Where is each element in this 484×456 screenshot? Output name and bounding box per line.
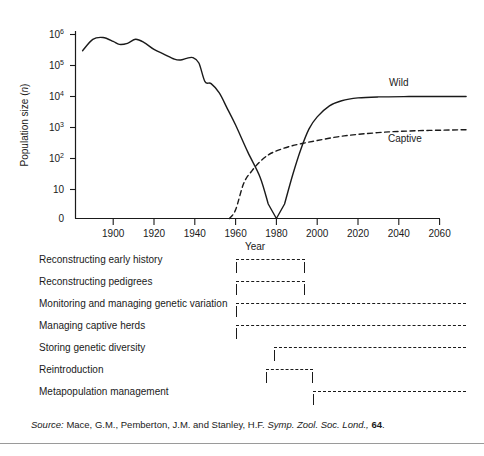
- chart-svg: 106 105 104 103 102 10 0 Population size…: [0, 0, 484, 250]
- x-tick-label-1940: 1940: [184, 228, 207, 239]
- timeline-bar: [236, 259, 305, 261]
- x-tick-label-2060: 2060: [428, 228, 451, 239]
- timeline-bar: [236, 325, 467, 327]
- timeline-bar-start-cap: [266, 372, 267, 383]
- x-tick-label-1900: 1900: [102, 228, 125, 239]
- population-chart: 106 105 104 103 102 10 0 Population size…: [0, 0, 484, 250]
- timeline-bar: [313, 391, 466, 393]
- timeline-bar-start-cap: [236, 328, 237, 339]
- source-caption: Source: Mace, G.M., Pemberton, J.M. and …: [31, 419, 385, 430]
- source-terminator: .: [382, 419, 385, 430]
- timeline-bar-end-cap: [304, 284, 305, 295]
- timeline-row: Storing genetic diversity: [0, 340, 484, 355]
- x-axis-title: Year: [245, 241, 266, 250]
- timeline-row-label: Reconstructing pedigrees: [39, 274, 152, 289]
- y-axis-title: Population size (n): [19, 84, 30, 167]
- timeline-bar-start-cap: [236, 262, 237, 273]
- y-tick-label-10: 10: [53, 184, 65, 195]
- timeline-row: Reconstructing pedigrees: [0, 274, 484, 289]
- timeline-bar-start-cap: [274, 350, 275, 361]
- timeline-bar: [266, 369, 313, 371]
- timeline-row-label: Reintroduction: [39, 362, 103, 377]
- timeline-bar: [236, 281, 305, 283]
- source-volume: 64: [371, 419, 382, 430]
- timeline-row-label: Monitoring and managing genetic variatio…: [39, 296, 227, 311]
- series-line-captive: [229, 130, 466, 219]
- source-prefix: Source:: [31, 419, 64, 430]
- x-tick-label-1980: 1980: [265, 228, 288, 239]
- timeline-bar: [236, 303, 467, 305]
- timeline-bar-end-cap: [304, 262, 305, 273]
- series-line-wild: [83, 37, 467, 218]
- x-tick-label-2040: 2040: [388, 228, 411, 239]
- timeline-bar-end-cap: [312, 372, 313, 383]
- x-tick-label-1920: 1920: [143, 228, 166, 239]
- y-tick-label-1e6: 106: [49, 28, 64, 40]
- y-axis-ticks: [70, 35, 75, 190]
- y-tick-label-1e3: 103: [49, 121, 64, 133]
- timeline-bar: [274, 347, 466, 349]
- activity-timeline: Reconstructing early historyReconstructi…: [0, 252, 484, 410]
- timeline-row-label: Managing captive herds: [39, 318, 145, 333]
- y-tick-label-0: 0: [58, 213, 64, 224]
- timeline-row: Reintroduction: [0, 362, 484, 377]
- source-authors: Mace, G.M., Pemberton, J.M. and Stanley,…: [66, 419, 264, 430]
- timeline-row: Managing captive herds: [0, 318, 484, 333]
- bottom-divider: [0, 443, 484, 444]
- timeline-bar-start-cap: [236, 284, 237, 295]
- y-tick-label-1e4: 104: [49, 90, 64, 102]
- timeline-bar-start-cap: [236, 306, 237, 317]
- series-label-wild: Wild: [389, 77, 408, 88]
- timeline-row-label: Metapopulation management: [39, 384, 169, 399]
- x-axis-tick-labels: 1900 1920 1940 1960 1980 2000 2020 2040 …: [102, 228, 451, 239]
- timeline-row-label: Storing genetic diversity: [39, 340, 145, 355]
- series-label-captive: Captive: [388, 133, 422, 144]
- x-axis-ticks: [113, 219, 439, 225]
- figure-container: 106 105 104 103 102 10 0 Population size…: [0, 0, 484, 456]
- timeline-row: Monitoring and managing genetic variatio…: [0, 296, 484, 311]
- timeline-row: Reconstructing early history: [0, 252, 484, 267]
- y-tick-label-1e2: 102: [49, 152, 64, 164]
- timeline-row: Metapopulation management: [0, 384, 484, 399]
- x-tick-label-2020: 2020: [347, 228, 370, 239]
- y-tick-label-1e5: 105: [49, 59, 64, 71]
- timeline-row-label: Reconstructing early history: [39, 252, 162, 267]
- source-journal: Symp. Zool. Soc. Lond.,: [267, 419, 368, 430]
- x-tick-label-1960: 1960: [224, 228, 247, 239]
- y-axis-tick-labels: 106 105 104 103 102 10 0: [49, 28, 64, 224]
- timeline-bar-start-cap: [313, 394, 314, 405]
- x-tick-label-2000: 2000: [306, 228, 329, 239]
